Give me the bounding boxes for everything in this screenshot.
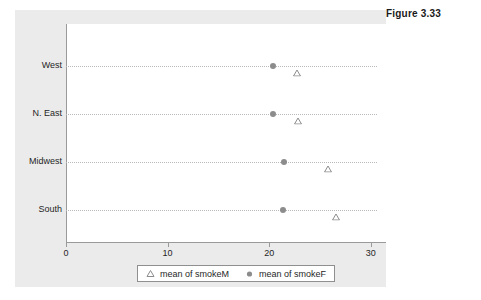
triangle-outline-icon [146, 269, 155, 278]
gridline-n-east [66, 114, 377, 116]
datapoint-mean-of-smokef-n-east [270, 111, 276, 117]
gridline-west [66, 66, 377, 68]
chart-panel: 0102030 WestN. EastMidwestSouth mean of … [15, 10, 386, 287]
x-axis-line [66, 242, 386, 243]
legend-label: mean of smokeM [160, 269, 229, 279]
legend-entry-mean-of-smokem: mean of smokeM [146, 269, 229, 279]
datapoint-mean-of-smokef-midwest [281, 159, 287, 165]
x-tick-mark-0 [66, 243, 67, 247]
x-tick-label-10: 10 [148, 248, 188, 258]
legend-label: mean of smokeF [259, 269, 326, 279]
circle-filled-icon [245, 269, 254, 278]
x-tick-mark-10 [168, 243, 169, 247]
datapoint-mean-of-smokef-west [270, 63, 276, 69]
datapoint-mean-of-smokem-n-east [294, 111, 302, 118]
datapoint-mean-of-smokef-south [280, 207, 286, 213]
y-axis-label-n-east: N. East [0, 108, 62, 118]
x-tick-label-0: 0 [46, 248, 86, 258]
datapoint-mean-of-smokem-south [332, 207, 340, 214]
legend-entry-mean-of-smokef: mean of smokeF [245, 269, 326, 279]
figure-caption: Figure 3.33 [386, 8, 478, 19]
x-tick-mark-20 [269, 243, 270, 247]
gridline-south [66, 210, 377, 212]
x-tick-mark-30 [371, 243, 372, 247]
chart-legend: mean of smokeMmean of smokeF [137, 265, 335, 282]
x-tick-label-20: 20 [249, 248, 289, 258]
y-axis-label-west: West [0, 60, 62, 70]
x-tick-label-30: 30 [351, 248, 391, 258]
datapoint-mean-of-smokem-midwest [324, 159, 332, 166]
y-axis-label-midwest: Midwest [0, 156, 62, 166]
plot-area: 0102030 [66, 24, 386, 243]
datapoint-mean-of-smokem-west [293, 63, 301, 70]
y-axis-label-south: South [0, 204, 62, 214]
